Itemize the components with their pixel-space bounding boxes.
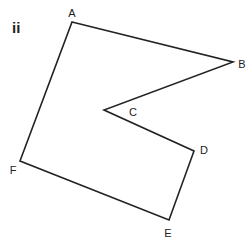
vertex-label-e: E [164, 227, 171, 239]
hexagon-diagram: ii A B C D E F [0, 0, 251, 243]
vertex-label-a: A [68, 7, 76, 19]
vertex-label-f: F [10, 164, 17, 176]
vertex-label-c: C [129, 106, 137, 118]
vertex-label-d: D [200, 144, 208, 156]
vertex-label-b: B [238, 58, 245, 70]
figure-label: ii [12, 19, 20, 36]
concave-hexagon-ABCDEF [20, 22, 233, 220]
